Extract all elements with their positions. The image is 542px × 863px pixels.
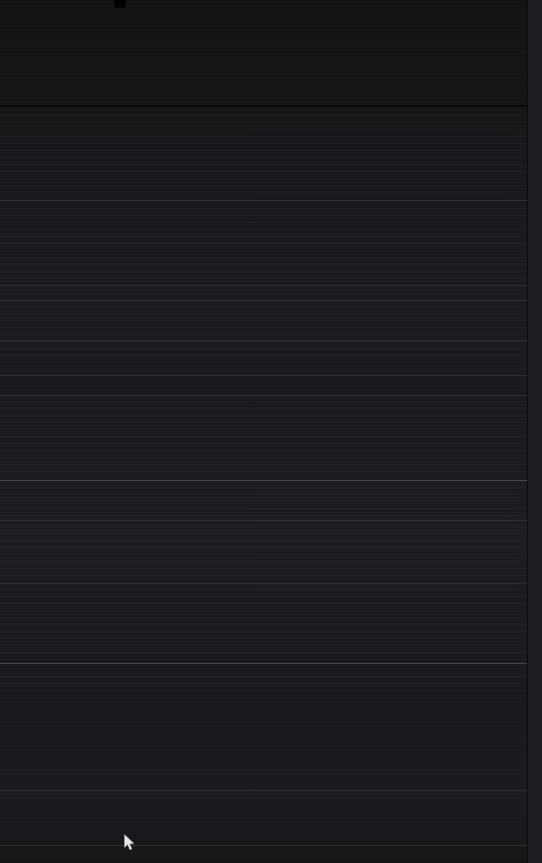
- mouse-pointer-icon: [124, 834, 135, 851]
- page-surface: [0, 0, 542, 863]
- top-notch: [114, 0, 126, 8]
- screen-capture: [0, 0, 542, 863]
- right-margin-strip: [527, 0, 542, 863]
